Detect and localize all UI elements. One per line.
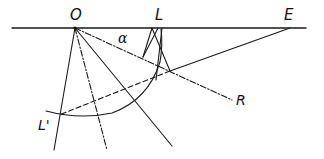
label-E: E (284, 6, 294, 24)
label-alpha: α (118, 30, 128, 46)
label-L-prime: L' (38, 117, 50, 133)
line-E-to-intersection (170, 28, 290, 71)
point-O (73, 26, 76, 29)
line-O-to-R (75, 28, 232, 100)
ray-O-left (54, 28, 75, 150)
geometry-diagram: O L E α R L' (0, 0, 324, 159)
label-L: L (155, 6, 163, 24)
arc-through-L-prime (46, 29, 162, 116)
ray-O-dashdot (75, 28, 107, 150)
label-O: O (70, 6, 82, 24)
label-R: R (236, 92, 246, 108)
